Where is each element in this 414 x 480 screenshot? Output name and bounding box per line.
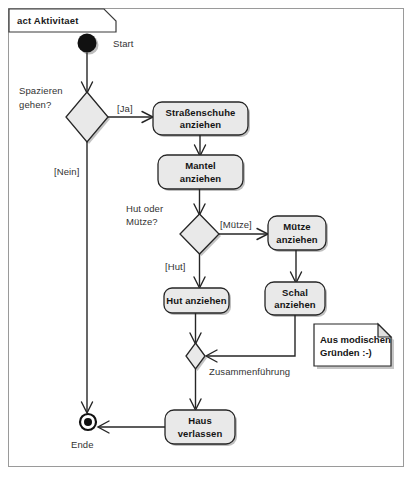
action-haus-line2: verlassen [178,428,223,439]
action-strassenschuhe-line1: Straßenschuhe [166,107,236,118]
action-muetze-line1: Mütze [283,221,310,232]
note-text-line2: Gründen :-) [320,347,372,358]
action-strassenschuhe-line2: anziehen [180,119,222,130]
action-muetze-line2: anziehen [276,234,318,245]
guard-label-muetze: [Mütze] [220,219,252,230]
guard-label-hut: [Hut] [165,261,186,272]
action-schal-line2: anziehen [274,299,316,310]
action-hut-line1: Hut anziehen [166,295,226,306]
guard-label-ja: [Ja] [117,103,133,114]
activity-diagram-canvas: act Aktivitaet Start Spazieren gehen? [J… [0,0,414,480]
action-mantel-line1: Mantel [185,160,216,171]
start-node-label: Start [113,38,134,49]
final-node-label: Ende [71,439,94,450]
action-schal-line1: Schal [282,287,308,298]
merge-node-label: Zusammenführung [209,366,290,377]
frame-tab-label: act Aktivitaet [17,15,79,26]
action-haus-line1: Haus [188,415,212,426]
diagram-svg: act Aktivitaet Start Spazieren gehen? [J… [0,0,414,480]
final-node-inner-dot [84,418,92,426]
note-text-line1: Aus modischen [320,334,391,345]
guard-label-nein: [Nein] [54,166,79,177]
decision-spazieren-label-line1: Spazieren [19,85,63,96]
initial-node[interactable] [78,34,97,53]
decision-hutmuetze-label-line1: Hut oder [126,203,163,214]
decision-spazieren-label-line2: gehen? [19,99,51,110]
decision-hutmuetze-label-line2: Mütze? [126,216,158,227]
action-mantel-line2: anziehen [180,173,222,184]
